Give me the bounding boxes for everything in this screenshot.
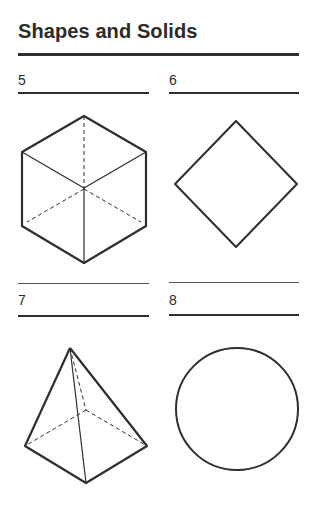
cube-icon <box>22 116 146 263</box>
circle-icon <box>176 348 298 470</box>
square-icon <box>175 121 297 247</box>
pyramid-icon <box>25 348 147 483</box>
figures-canvas <box>0 0 314 508</box>
